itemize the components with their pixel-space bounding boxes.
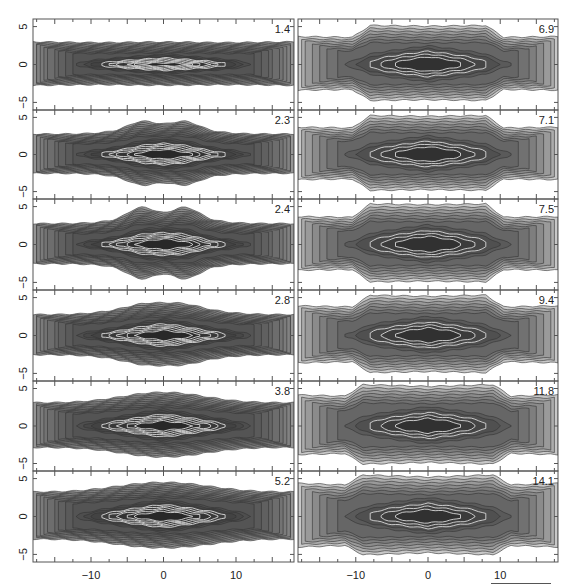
contour-panel: 6.9 <box>298 19 558 110</box>
contour-panel: 50−53.8 <box>17 381 294 471</box>
y-tick-label: 0 <box>17 61 29 67</box>
y-tick-label: 0 <box>17 513 29 519</box>
x-tick-label: 0 <box>160 569 166 581</box>
contour-panel: 11.8 <box>298 381 558 471</box>
y-tick-label: 5 <box>17 114 29 120</box>
panel-time-label: 6.9 <box>539 23 554 35</box>
contour-panel: 50−55.2−10010 <box>17 471 294 581</box>
contour-panel: 50−52.3 <box>17 110 294 199</box>
contour-panel: 14.1−10010 <box>298 471 558 581</box>
contour-panel: 50−52.8 <box>17 290 294 381</box>
panel-time-label: 1.4 <box>275 23 290 35</box>
panel-time-label: 9.4 <box>539 294 554 306</box>
y-tick-label: 0 <box>17 332 29 338</box>
panel-time-label: 2.8 <box>275 294 290 306</box>
contour-figure: 50−51.450−52.350−52.450−52.850−53.850−55… <box>0 0 571 586</box>
y-tick-label: 5 <box>17 295 29 301</box>
panel-time-label: 14.1 <box>533 475 554 487</box>
y-tick-label: −5 <box>17 457 29 470</box>
x-tick-label: 0 <box>425 569 431 581</box>
contour-panel: 7.1 <box>298 110 558 199</box>
x-tick-label: −10 <box>346 569 365 581</box>
contour-panel: 7.5 <box>298 199 558 290</box>
x-tick-label: −10 <box>82 569 101 581</box>
y-tick-label: −5 <box>17 185 29 198</box>
panel-time-label: 11.8 <box>533 385 554 397</box>
contour-panel: 50−51.4 <box>17 19 294 110</box>
y-tick-label: −5 <box>17 548 29 561</box>
scale-bar <box>491 583 551 584</box>
y-tick-label: 0 <box>17 151 29 157</box>
x-tick-label: 10 <box>494 569 506 581</box>
y-tick-label: 5 <box>17 204 29 210</box>
panel-time-label: 7.5 <box>539 203 554 215</box>
y-tick-label: −5 <box>17 96 29 109</box>
y-tick-label: −5 <box>17 367 29 380</box>
panel-time-label: 2.3 <box>275 114 290 126</box>
panel-time-label: 2.4 <box>275 203 290 215</box>
contour-panel: 9.4 <box>298 290 558 381</box>
y-tick-label: 0 <box>17 423 29 429</box>
contour-panel: 50−52.4 <box>17 199 294 290</box>
x-tick-label: 10 <box>230 569 242 581</box>
y-tick-label: −5 <box>17 276 29 289</box>
y-tick-label: 0 <box>17 241 29 247</box>
y-tick-label: 5 <box>17 476 29 482</box>
y-tick-label: 5 <box>17 385 29 391</box>
y-tick-label: 5 <box>17 24 29 30</box>
panel-time-label: 3.8 <box>275 385 290 397</box>
panel-time-label: 5.2 <box>275 475 290 487</box>
panel-time-label: 7.1 <box>539 114 554 126</box>
